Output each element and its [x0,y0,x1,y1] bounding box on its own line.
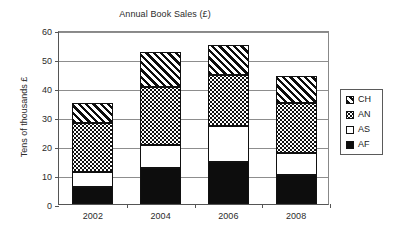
x-tick-label-2004: 2004 [151,211,171,221]
x-tick-mark [195,204,196,208]
x-tick-mark [262,204,263,208]
legend-label-AF: AF [358,140,370,149]
y-axis-label: Tens of thousands £ [19,42,29,192]
bar-segment-AS-2006 [208,126,249,162]
y-tick-label-40: 40 [42,85,52,95]
bar-segment-CH-2002 [72,103,113,123]
bar-segment-AN-2002 [72,123,113,172]
y-tick-label-0: 0 [47,201,52,211]
bar-segment-AF-2004 [140,168,181,204]
legend-label-CH: CH [358,95,371,104]
chart-legend: CHANASAF [340,89,383,155]
bar-segment-AS-2002 [72,172,113,187]
x-tick-label-2002: 2002 [83,211,103,221]
bar-segment-AF-2002 [72,187,113,204]
bar-segment-CH-2006 [208,45,249,75]
gridline-50 [59,61,328,62]
y-tick-label-10: 10 [42,172,52,182]
bar-segment-CH-2008 [276,76,317,102]
y-tick-label-50: 50 [42,56,52,66]
legend-label-AN: AN [358,110,371,119]
bar-segment-AN-2006 [208,75,249,126]
x-tick-mark [330,204,331,208]
legend-item-AF[interactable]: AF [346,140,378,149]
legend-item-AS[interactable]: AS [346,125,378,134]
legend-label-AS: AS [358,125,370,134]
legend-item-CH[interactable]: CH [346,95,378,104]
y-tick-mark-30 [55,119,59,120]
bar-segment-AF-2006 [208,162,249,204]
y-tick-mark-20 [55,148,59,149]
x-tick-label-2006: 2006 [218,211,238,221]
bar-segment-AN-2004 [140,87,181,145]
bar-segment-AN-2008 [276,103,317,154]
legend-swatch-CH-icon [346,96,354,104]
gridline-60 [59,32,328,33]
legend-swatch-AF-icon [346,141,354,149]
y-tick-mark-10 [55,177,59,178]
y-tick-mark-40 [55,90,59,91]
y-tick-mark-50 [55,61,59,62]
legend-item-AN[interactable]: AN [346,110,378,119]
y-tick-label-60: 60 [42,27,52,37]
bar-segment-AS-2004 [140,145,181,168]
bar-segment-CH-2004 [140,52,181,87]
y-tick-mark-0 [55,206,59,207]
chart-container: Annual Book Sales (£) Tens of thousands … [0,0,395,239]
legend-swatch-AN-icon [346,111,354,119]
chart-title: Annual Book Sales (£) [0,9,330,19]
x-tick-mark [127,204,128,208]
y-tick-label-20: 20 [42,143,52,153]
bar-segment-AS-2008 [276,153,317,175]
x-tick-label-2008: 2008 [286,211,306,221]
plot-area: 0102030405060 2002200420062008 [58,31,329,205]
y-tick-label-30: 30 [42,114,52,124]
y-tick-mark-60 [55,32,59,33]
legend-swatch-AS-icon [346,126,354,134]
bar-segment-AF-2008 [276,175,317,204]
